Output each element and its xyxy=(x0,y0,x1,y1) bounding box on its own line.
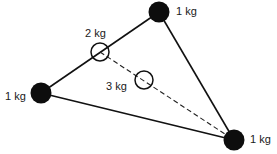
centre-3kg-marker xyxy=(135,71,153,89)
label-mass-bottom-right: 1 kg xyxy=(250,133,271,145)
label-mass-top: 1 kg xyxy=(176,5,197,17)
label-centre-2kg: 2 kg xyxy=(85,27,106,39)
edge-top-bottom-right xyxy=(159,12,234,140)
mass-bottom-right xyxy=(224,130,245,151)
mass-left xyxy=(31,83,52,104)
mass-diagram: 1 kg 1 kg 1 kg 2 kg 3 kg xyxy=(0,0,277,154)
median-dashed-line xyxy=(100,52,234,140)
label-mass-left: 1 kg xyxy=(5,90,26,102)
edge-left-bottom-right xyxy=(41,93,234,140)
label-centre-3kg: 3 kg xyxy=(106,80,127,92)
mass-top xyxy=(149,2,170,23)
